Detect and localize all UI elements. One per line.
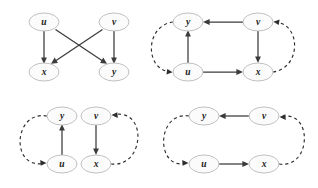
node-y[interactable]: y [99, 63, 129, 81]
node-layer: y v u x [47, 107, 111, 173]
edge-u-to-y [59, 124, 65, 155]
node-y[interactable]: y [47, 107, 77, 125]
edge-u-to-x [219, 161, 249, 167]
node-v[interactable]: v [99, 13, 129, 31]
node-v[interactable]: v [243, 13, 273, 31]
node-u[interactable]: u [189, 155, 219, 173]
edge-u-to-y [56, 30, 108, 64]
edge-x-to-v-dashed [273, 19, 295, 72]
node-y-label: y [185, 17, 191, 27]
edge-x-to-v-dashed [279, 114, 304, 164]
panel-bottom-left: y v u x [0, 94, 159, 188]
node-u[interactable]: u [29, 13, 59, 31]
node-y-label: y [201, 111, 207, 121]
edge-v-to-y [203, 19, 243, 25]
node-v[interactable]: v [81, 107, 111, 125]
panel-top-right-canvas: y v u x [159, 0, 318, 94]
panel-bottom-left-canvas: y v u x [0, 94, 159, 188]
edge-x-to-v-dashed [111, 112, 138, 164]
node-y[interactable]: y [173, 13, 203, 31]
node-y[interactable]: y [189, 107, 219, 125]
node-x[interactable]: x [249, 155, 279, 173]
panel-bottom-right: y v u x [159, 94, 318, 188]
edge-layer [41, 30, 117, 65]
panel-top-left: u v x y [0, 0, 159, 94]
panel-top-left-canvas: u v x y [0, 0, 159, 94]
node-v[interactable]: v [249, 107, 279, 125]
edge-v-to-x [51, 30, 103, 64]
edge-u-to-x [41, 31, 47, 64]
edge-v-to-x [93, 125, 99, 155]
node-x[interactable]: x [243, 63, 273, 81]
edge-y-to-u-dashed [164, 116, 189, 166]
graph-figure: u v x y [0, 0, 318, 188]
node-y-label: y [111, 67, 117, 77]
node-x[interactable]: x [81, 155, 111, 173]
panel-top-right: y v u x [159, 0, 318, 94]
node-x-label: x [93, 159, 99, 169]
node-x[interactable]: x [29, 63, 59, 81]
edge-layer [20, 112, 138, 166]
node-u[interactable]: u [47, 155, 77, 173]
node-x-label: x [41, 67, 47, 77]
edge-layer [151, 19, 294, 75]
edge-layer [164, 113, 305, 167]
edge-v-to-x [255, 31, 261, 63]
node-layer: y v u x [189, 107, 279, 173]
node-u-label: u [41, 17, 46, 27]
edge-u-to-x [203, 69, 243, 75]
edge-y-to-u-dashed [20, 116, 47, 166]
node-y-label: y [59, 111, 65, 121]
edge-v-to-y [111, 31, 117, 64]
node-u-label: u [59, 159, 64, 169]
node-u[interactable]: u [173, 63, 203, 81]
node-u-label: u [185, 67, 190, 77]
node-x-label: x [255, 67, 261, 77]
node-u-label: u [201, 159, 206, 169]
panel-bottom-right-canvas: y v u x [159, 94, 318, 188]
node-x-label: x [261, 159, 267, 169]
edge-u-to-y [185, 30, 191, 63]
edge-v-to-y [219, 113, 249, 119]
